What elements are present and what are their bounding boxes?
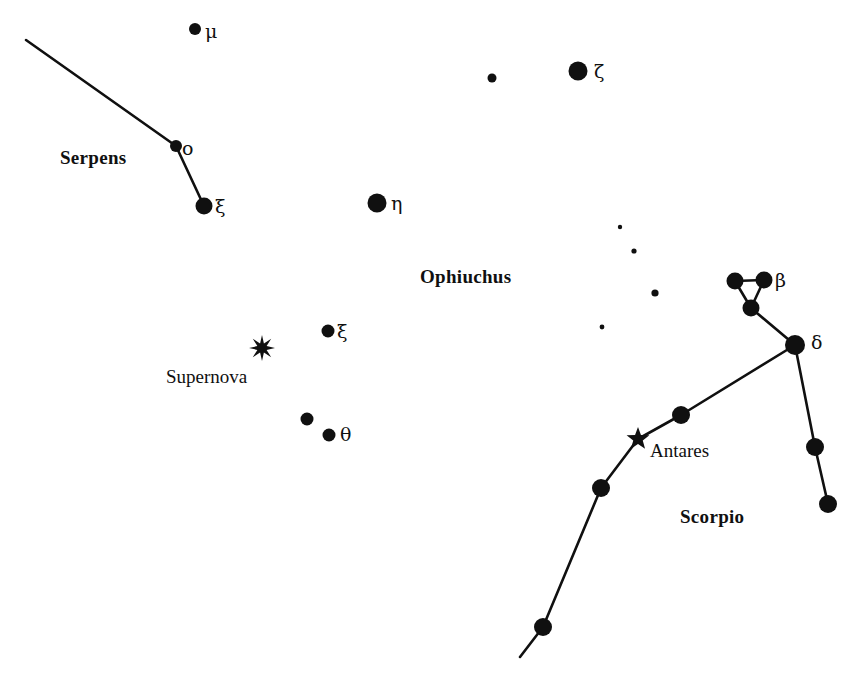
star-serpens-mu [189, 23, 201, 35]
greek-label-xi-ser-label: ξ [215, 197, 225, 216]
object-label-antares: Antares [650, 441, 709, 460]
star-scorpio-tau [592, 479, 610, 497]
star-ophiuchus-faint-2 [618, 225, 622, 229]
constellation-label-scorpio: Scorpio [680, 507, 744, 526]
star-ophiuchus-faint-4 [651, 289, 658, 296]
star-ophiuchus-faint-1 [488, 74, 497, 83]
constellation-label-ophiuchus: Ophiuchus [420, 267, 511, 286]
star-ophiuchus-faint-5 [600, 325, 605, 330]
greek-label-zeta-label: ζ [594, 62, 604, 81]
constellation-line-serpens-tail [26, 40, 176, 146]
sky-canvas [0, 0, 861, 684]
star-scorpio-pi [806, 438, 824, 456]
star-ophiuchus-faint-3 [631, 248, 636, 253]
greek-label-mu-label: μ [205, 22, 217, 41]
marker-supernova-marker [249, 335, 275, 361]
star-ophiuchus-xi [322, 325, 335, 338]
marker-antares-marker [627, 427, 650, 449]
star-serpens-omicron [170, 140, 182, 152]
star-scorpio-epsilon [534, 618, 552, 636]
star-serpens-xi [196, 198, 213, 215]
greek-label-xi-oph-label: ξ [337, 322, 347, 341]
constellation-line-scorpio-body [520, 345, 795, 657]
star-scorpio-beta [756, 272, 773, 289]
constellation-lines-group [26, 40, 828, 657]
constellation-label-serpens: Serpens [60, 148, 127, 167]
star-ophiuchus-theta [323, 429, 336, 442]
star-scorpio-sigma [672, 406, 690, 424]
star-ophiuchus-zeta [569, 62, 588, 81]
stars-group [170, 23, 837, 636]
object-label-supernova: Supernova [166, 367, 247, 386]
greek-label-theta-label: θ [340, 425, 351, 444]
constellation-line-scorpio-delta-pi [795, 345, 815, 447]
greek-label-eta-label: η [391, 194, 402, 213]
marker-stars-group [249, 335, 649, 449]
star-scorpio-head-left [727, 273, 744, 290]
greek-label-delta-label: δ [811, 333, 822, 352]
star-chart: SerpensOphiuchusScorpioSupernovaAntaresμ… [0, 0, 861, 684]
star-ophiuchus-dot-a [301, 413, 314, 426]
star-scorpio-rho [819, 495, 837, 513]
greek-label-beta-label: β [775, 271, 786, 290]
star-scorpio-head-low [743, 300, 760, 317]
star-ophiuchus-eta [368, 194, 387, 213]
greek-label-omicron-label: o [182, 139, 193, 158]
star-scorpio-delta [785, 335, 805, 355]
